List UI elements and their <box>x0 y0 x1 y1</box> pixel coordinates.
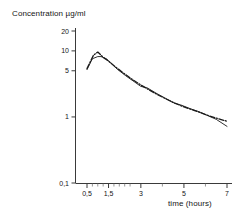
y-tick-label: 20 <box>61 28 69 35</box>
x-tick-label: 1,5 <box>104 190 114 197</box>
plot-area: 0,1151020 0,51,5357 <box>0 0 245 217</box>
axis-lines <box>76 28 233 184</box>
data-series-group <box>87 52 227 126</box>
x-tick-label: 3 <box>139 190 143 197</box>
x-tick-label: 7 <box>225 190 229 197</box>
y-tick-label: 5 <box>65 67 69 74</box>
y-tick-group: 0,1151020 <box>59 28 75 187</box>
x-tick-label: 0,5 <box>82 190 92 197</box>
y-tick-label: 0,1 <box>59 180 69 187</box>
x-axis-title: time (hours) <box>168 199 212 208</box>
x-tick-label: 5 <box>182 190 186 197</box>
chart-figure: Concentration µg/ml 0,1151020 0,51,5357 … <box>0 0 245 217</box>
series-curve-solid <box>87 57 227 127</box>
series-curve-dashed <box>87 52 227 121</box>
x-tick-group: 0,51,5357 <box>82 184 229 198</box>
y-tick-label: 1 <box>65 113 69 120</box>
y-tick-label: 10 <box>61 47 69 54</box>
